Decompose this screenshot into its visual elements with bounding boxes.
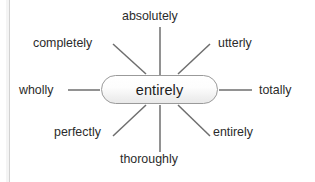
spoke-label-absolutely[interactable]: absolutely [122, 9, 178, 23]
spoke-line-completely [113, 44, 146, 74]
diagram-canvas: entirely absolutelycompletelyutterlywhol… [0, 0, 315, 182]
spoke-label-perfectly[interactable]: perfectly [54, 125, 101, 139]
spoke-line-perfectly [113, 105, 146, 136]
spoke-line-entirely-2 [178, 105, 210, 136]
center-node[interactable]: entirely [101, 75, 218, 104]
spoke-line-utterly [178, 44, 210, 74]
spoke-label-entirely-2[interactable]: entirely [213, 125, 253, 139]
spoke-label-totally[interactable]: totally [259, 83, 291, 97]
center-node-label: entirely [136, 82, 184, 98]
spoke-label-thoroughly[interactable]: thoroughly [120, 152, 178, 166]
spoke-label-wholly[interactable]: wholly [19, 83, 53, 97]
spoke-label-utterly[interactable]: utterly [218, 36, 252, 50]
spoke-label-completely[interactable]: completely [33, 36, 92, 50]
